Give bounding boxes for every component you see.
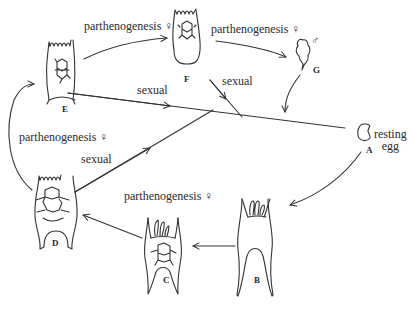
node-label-d: D bbox=[52, 239, 59, 248]
label-e-to-f: parthenogenesis ♀ bbox=[84, 20, 173, 32]
label-e-sexual: sexual bbox=[137, 84, 168, 96]
organism-e-icon bbox=[47, 40, 75, 104]
arrow-e-to-f bbox=[84, 38, 167, 59]
node-label-e: E bbox=[62, 105, 68, 114]
node-label-a: A bbox=[366, 146, 373, 155]
label-c-to-d: parthenogenesis ♀ bbox=[124, 190, 213, 202]
arrow-g-to-line bbox=[285, 75, 300, 112]
organism-f-icon bbox=[173, 9, 200, 64]
arrow-c-to-d bbox=[83, 215, 142, 238]
node-label-c: C bbox=[163, 276, 170, 285]
resting-egg-caption-line2: egg bbox=[374, 140, 407, 152]
node-label-b: B bbox=[254, 276, 260, 285]
resting-egg-caption: resting egg bbox=[374, 128, 407, 152]
label-f-to-g: parthenogenesis ♀ bbox=[211, 23, 300, 35]
resting-egg-icon bbox=[358, 124, 370, 141]
label-d-sexual: sexual bbox=[81, 153, 112, 165]
male-symbol: ♂ bbox=[311, 35, 319, 46]
node-label-g: G bbox=[313, 66, 320, 75]
life-cycle-diagram bbox=[0, 0, 414, 313]
label-f-sexual: sexual bbox=[222, 75, 253, 87]
arrow-a-to-b bbox=[290, 152, 361, 205]
node-label-f: F bbox=[184, 75, 190, 84]
label-d-to-e: parthenogenesis ♀ bbox=[19, 131, 108, 143]
organism-g-male-icon bbox=[296, 39, 310, 70]
arrow-f-to-g bbox=[216, 41, 286, 57]
